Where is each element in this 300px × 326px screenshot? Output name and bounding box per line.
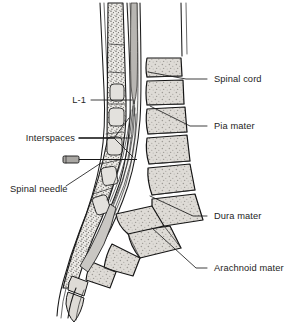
- label-l1: L-1: [72, 95, 86, 105]
- label-pia-mater: Pia mater: [214, 121, 255, 131]
- label-spinal-cord: Spinal cord: [214, 74, 262, 84]
- needle-hub[interactable]: [63, 156, 79, 163]
- label-spinal-needle: Spinal needle: [10, 184, 68, 194]
- anatomy-diagram-svg: Spinal cord Pia mater Dura mater Arachno…: [0, 0, 300, 326]
- spine-illustration-figure: Spinal cord Pia mater Dura mater Arachno…: [0, 0, 300, 326]
- label-interspaces: Interspaces: [26, 133, 75, 143]
- label-dura-mater: Dura mater: [214, 211, 262, 221]
- label-arachnoid-mater: Arachnoid mater: [214, 263, 284, 273]
